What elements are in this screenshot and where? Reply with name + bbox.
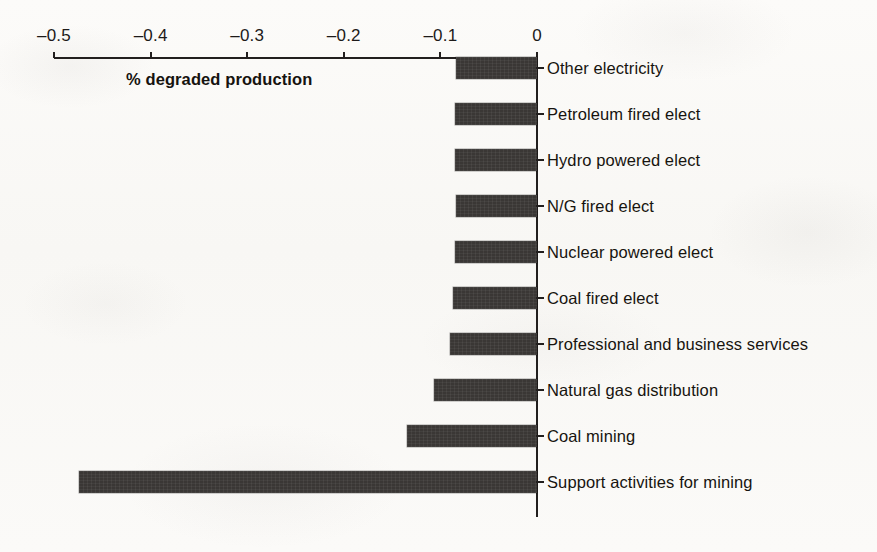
category-label: Support activities for mining: [547, 473, 753, 492]
y-tick-9: [536, 481, 544, 483]
x-tick-label-2: –0.3: [230, 26, 264, 46]
bar: [455, 149, 537, 171]
category-label: Coal fired elect: [547, 289, 659, 308]
category-label: Nuclear powered elect: [547, 243, 713, 262]
x-tick-3: [343, 52, 345, 58]
y-tick-2: [536, 159, 544, 161]
category-label: Coal mining: [547, 427, 635, 446]
y-tick-5: [536, 297, 544, 299]
y-tick-4: [536, 251, 544, 253]
y-tick-6: [536, 343, 544, 345]
bar: [455, 241, 537, 263]
x-tick-label-0: –0.5: [37, 26, 71, 46]
category-label: N/G fired elect: [547, 197, 654, 216]
bar: [79, 471, 537, 493]
y-tick-7: [536, 389, 544, 391]
y-tick-8: [536, 435, 544, 437]
bar: [407, 425, 537, 447]
category-label: Hydro powered elect: [547, 151, 700, 170]
x-tick-label-5: 0: [532, 26, 542, 46]
x-tick-label-1: –0.4: [134, 26, 168, 46]
bar: [450, 333, 537, 355]
bar: [434, 379, 537, 401]
x-tick-label-4: –0.1: [423, 26, 457, 46]
category-label: Other electricity: [547, 59, 663, 78]
category-label: Natural gas distribution: [547, 381, 718, 400]
y-tick-3: [536, 205, 544, 207]
x-tick-label-3: –0.2: [327, 26, 361, 46]
bar: [455, 103, 537, 125]
y-tick-0: [536, 67, 544, 69]
plot-area: –0.5–0.4–0.3–0.2–0.10 % degraded product…: [0, 0, 877, 552]
bar: [453, 287, 537, 309]
x-axis-title: % degraded production: [126, 70, 312, 89]
x-tick-1: [150, 52, 152, 58]
bar: [456, 195, 537, 217]
chart-figure: –0.5–0.4–0.3–0.2–0.10 % degraded product…: [0, 0, 877, 552]
y-tick-1: [536, 113, 544, 115]
category-label: Petroleum fired elect: [547, 105, 700, 124]
x-tick-2: [246, 52, 248, 58]
x-tick-0: [53, 52, 55, 58]
category-label: Professional and business services: [547, 335, 808, 354]
bar: [456, 57, 537, 79]
x-tick-4: [439, 52, 441, 58]
